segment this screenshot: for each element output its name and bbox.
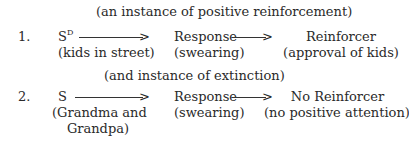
consequence-1-desc: (approval of kids)	[276, 45, 406, 61]
consequence-2: No Reinforcer	[266, 89, 409, 105]
response-2: Response	[174, 89, 237, 105]
stimulus-2-desc-line2: Grandpa)	[52, 121, 144, 137]
item-number-2: 2.	[18, 89, 30, 105]
stimulus-2-desc-line1: (Grandma and	[52, 105, 144, 121]
stimulus-2: S	[58, 89, 67, 105]
item-number-1: 1.	[18, 29, 30, 45]
response-2-desc: (swearing)	[174, 105, 244, 121]
response-1-desc: (swearing)	[174, 45, 244, 61]
consequence-1: Reinforcer	[276, 29, 406, 45]
response-1: Response	[174, 29, 237, 45]
arrow-icon: >	[79, 29, 149, 45]
consequence-2-desc: (no positive attention)	[264, 105, 409, 121]
caption-positive-reinforcement: (an instance of positive reinforcement)	[96, 4, 316, 20]
arrow-icon: >	[75, 89, 149, 105]
stimulus-1-desc: (kids in street)	[58, 45, 155, 61]
stimulus-1: SD	[58, 29, 73, 45]
caption-extinction: (and instance of extinction)	[104, 68, 304, 84]
arrow-icon: >	[232, 29, 272, 45]
